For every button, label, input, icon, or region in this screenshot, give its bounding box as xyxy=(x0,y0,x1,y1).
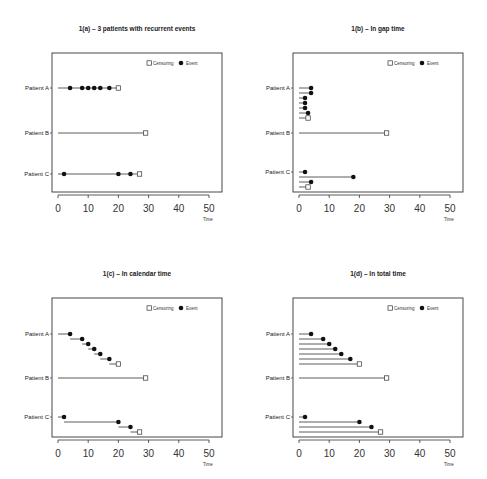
event-marker xyxy=(303,96,308,101)
plot-frame xyxy=(293,298,463,437)
x-tick-label: 30 xyxy=(143,203,155,214)
legend-event-label: Event xyxy=(427,61,439,66)
series-patient-a: Patient A xyxy=(266,331,362,366)
patient-label: Patient B xyxy=(266,130,290,136)
x-axis-label: Time xyxy=(444,462,454,467)
panel-c: 1(c) – In calendar timeCensoringEvent010… xyxy=(24,270,222,467)
patient-label: Patient A xyxy=(266,331,290,337)
event-marker xyxy=(116,420,121,425)
censor-marker xyxy=(143,131,147,135)
event-marker xyxy=(309,332,314,337)
x-tick-label: 50 xyxy=(203,448,215,459)
patient-label: Patient B xyxy=(25,130,49,136)
legend-censoring-label: Censoring xyxy=(394,61,415,66)
series-patient-b: Patient B xyxy=(266,130,389,136)
censoring-square-icon xyxy=(147,306,151,310)
x-axis: 01020304050Time xyxy=(296,195,456,222)
x-tick-label: 0 xyxy=(55,203,61,214)
series-patient-a: Patient A xyxy=(266,85,313,120)
x-tick-label: 30 xyxy=(384,203,396,214)
event-marker xyxy=(107,86,112,91)
censoring-square-icon xyxy=(147,61,151,65)
x-tick-label: 10 xyxy=(83,448,95,459)
censor-marker xyxy=(116,362,120,366)
series-patient-c: Patient C xyxy=(24,414,141,434)
event-dot-icon xyxy=(420,61,425,66)
panel-b: 1(b) – In gap timeCensoringEvent01020304… xyxy=(265,25,463,222)
legend: CensoringEvent xyxy=(388,61,439,66)
x-tick-label: 50 xyxy=(444,203,456,214)
series-patient-c: Patient C xyxy=(265,169,355,189)
event-marker xyxy=(327,342,332,347)
legend: CensoringEvent xyxy=(388,306,439,311)
event-marker xyxy=(303,170,308,175)
x-axis-label: Time xyxy=(203,217,213,222)
patient-label: Patient B xyxy=(266,375,290,381)
panel-title: 1(d) – In total time xyxy=(350,270,406,278)
x-tick-label: 40 xyxy=(414,448,426,459)
figure-stage: 1(a) – 3 patients with recurrent eventsC… xyxy=(0,0,487,479)
event-marker xyxy=(303,415,308,420)
event-marker xyxy=(306,111,311,116)
event-marker xyxy=(98,352,103,357)
patient-label: Patient C xyxy=(265,414,290,420)
event-marker xyxy=(86,342,91,347)
x-tick-label: 20 xyxy=(354,448,366,459)
series-patient-c: Patient C xyxy=(265,414,382,434)
patient-label: Patient A xyxy=(25,331,49,337)
censor-marker xyxy=(378,430,382,434)
event-dot-icon xyxy=(179,61,184,66)
x-tick-label: 10 xyxy=(324,448,336,459)
censoring-square-icon xyxy=(388,306,392,310)
x-tick-label: 50 xyxy=(203,203,215,214)
event-marker xyxy=(351,175,356,180)
series-patient-a: Patient A xyxy=(25,331,121,366)
event-marker xyxy=(348,357,353,362)
legend-event-label: Event xyxy=(186,306,198,311)
series-patient-c: Patient C xyxy=(24,171,141,177)
event-dot-icon xyxy=(179,306,184,311)
event-marker xyxy=(62,415,67,420)
x-tick-label: 20 xyxy=(354,203,366,214)
censor-marker xyxy=(384,376,388,380)
event-marker xyxy=(309,86,314,91)
censor-marker xyxy=(306,116,310,120)
series-patient-a: Patient A xyxy=(25,85,121,91)
event-dot-icon xyxy=(420,306,425,311)
patient-label: Patient C xyxy=(265,169,290,175)
event-marker xyxy=(92,347,97,352)
event-marker xyxy=(107,357,112,362)
x-axis-label: Time xyxy=(444,217,454,222)
x-axis: 01020304050Time xyxy=(55,195,215,222)
censor-marker xyxy=(143,376,147,380)
censor-marker xyxy=(357,362,361,366)
panel-title: 1(b) – In gap time xyxy=(351,25,405,33)
legend-censoring-label: Censoring xyxy=(153,61,174,66)
event-marker xyxy=(80,337,85,342)
panel-a: 1(a) – 3 patients with recurrent eventsC… xyxy=(24,25,222,222)
patient-label: Patient A xyxy=(266,85,290,91)
event-marker xyxy=(68,332,73,337)
censor-marker xyxy=(137,172,141,176)
series-patient-b: Patient B xyxy=(25,375,148,381)
legend-censoring-label: Censoring xyxy=(153,306,174,311)
recurrent-events-figure: 1(a) – 3 patients with recurrent eventsC… xyxy=(0,0,487,479)
event-marker xyxy=(86,86,91,91)
plot-frame xyxy=(52,298,222,437)
event-marker xyxy=(116,172,121,177)
panel-title: 1(a) – 3 patients with recurrent events xyxy=(79,25,196,33)
event-marker xyxy=(128,425,133,430)
event-marker xyxy=(98,86,103,91)
x-axis-label: Time xyxy=(203,462,213,467)
x-tick-label: 40 xyxy=(173,203,185,214)
legend: CensoringEvent xyxy=(147,61,198,66)
censor-marker xyxy=(306,185,310,189)
x-tick-label: 30 xyxy=(143,448,155,459)
event-marker xyxy=(339,352,344,357)
x-tick-label: 0 xyxy=(296,203,302,214)
legend-event-label: Event xyxy=(427,306,439,311)
x-tick-label: 40 xyxy=(173,448,185,459)
patient-label: Patient C xyxy=(24,414,49,420)
legend: CensoringEvent xyxy=(147,306,198,311)
x-tick-label: 30 xyxy=(384,448,396,459)
